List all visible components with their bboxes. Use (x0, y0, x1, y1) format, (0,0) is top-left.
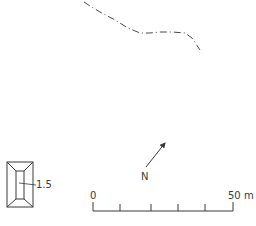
scale-start-label: 0 (90, 190, 96, 201)
north-arrow: N (141, 143, 165, 182)
site-plan-map: 1.5 N 0 50 m (0, 0, 256, 226)
boundary-dash-dot-line (84, 2, 200, 50)
north-label: N (141, 171, 148, 182)
structure-inner-rect (16, 171, 24, 199)
structure-diagonal (24, 162, 33, 171)
structure-diagonal (24, 199, 33, 207)
scale-end-label: 50 m (228, 190, 254, 201)
north-arrow-icon (146, 143, 165, 167)
structure-plan: 1.5 (7, 162, 52, 207)
structure-diagonal (7, 199, 16, 207)
structure-dimension-label: 1.5 (36, 179, 52, 190)
scale-bar: 0 50 m (90, 190, 254, 211)
structure-diagonal (7, 162, 16, 171)
scale-bar-ticks (93, 202, 233, 211)
